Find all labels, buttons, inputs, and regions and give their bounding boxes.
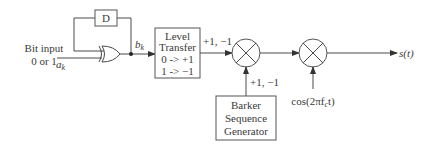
level-transfer-line-4: 1 -> −1 xyxy=(161,65,194,77)
input-symbol-a: ak xyxy=(56,58,66,72)
output-label: s(t) xyxy=(399,47,414,60)
barker-line-1: Barker xyxy=(231,99,261,111)
xor-gate-icon xyxy=(99,46,120,62)
level-transfer-line-2: Transfer xyxy=(159,41,196,53)
junction-dot xyxy=(129,52,133,56)
multiplier-2-icon xyxy=(299,39,327,67)
delay-label: D xyxy=(102,12,110,24)
barker-line-2: Sequence xyxy=(225,112,267,124)
level-output-label: +1, −1 xyxy=(203,35,232,47)
multiplier-1-icon xyxy=(232,39,260,67)
carrier-label: cos(2πfct) xyxy=(291,95,335,109)
feedback-line-right xyxy=(117,18,131,54)
bit-input-values: 0 or 1 xyxy=(31,55,57,67)
dsss-transmitter-diagram: Bit input 0 or 1 ak D bk Level Transfer … xyxy=(0,0,431,147)
bk-symbol: bk xyxy=(135,38,145,52)
barker-output-label: +1, −1 xyxy=(250,76,279,88)
level-transfer-line-3: 0 -> +1 xyxy=(161,53,194,65)
barker-line-3: Generator xyxy=(224,125,268,137)
bit-input-label: Bit input xyxy=(25,42,64,54)
